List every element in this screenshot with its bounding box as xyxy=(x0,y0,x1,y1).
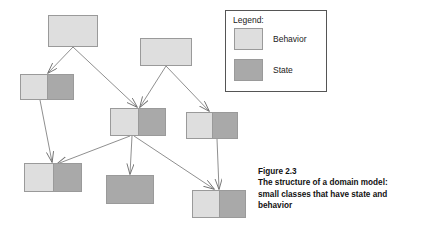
state-swatch xyxy=(234,59,263,81)
edge-n2-n5 xyxy=(166,66,209,111)
node-state-half xyxy=(219,191,246,217)
edge-n1-n4 xyxy=(73,47,137,107)
node-state-half xyxy=(107,176,153,203)
caption-line-4: behavior xyxy=(258,200,434,211)
node-behavior-half xyxy=(141,39,191,65)
edge-n5-n8 xyxy=(217,139,219,189)
figure-caption: Figure 2.3 The structure of a domain mod… xyxy=(258,166,434,212)
edge-n4-n6 xyxy=(57,136,130,164)
node-state-half xyxy=(47,75,74,99)
node-right-middle[interactable] xyxy=(186,112,238,139)
legend-box: Legend: Behavior State xyxy=(225,10,327,92)
node-top-left[interactable] xyxy=(48,15,98,47)
node-state-half xyxy=(138,109,166,135)
legend-row-behavior: Behavior xyxy=(234,28,307,50)
node-bottom-right[interactable] xyxy=(192,190,246,218)
node-behavior-half xyxy=(21,75,47,99)
node-center[interactable] xyxy=(110,108,166,136)
node-behavior-half xyxy=(25,164,53,191)
node-state-half xyxy=(212,113,238,138)
caption-line-1: Figure 2.3 xyxy=(258,166,434,177)
edge-n2-n4 xyxy=(140,66,166,107)
node-behavior-half xyxy=(187,113,212,138)
node-bottom-left[interactable] xyxy=(24,163,82,192)
node-behavior-half xyxy=(193,191,219,217)
node-state-half xyxy=(53,164,82,191)
legend-row-state: State xyxy=(234,59,293,81)
node-bottom-middle[interactable] xyxy=(106,175,154,204)
legend-title: Legend: xyxy=(233,15,264,25)
caption-line-2: The structure of a domain model: xyxy=(258,177,434,188)
node-left-upper[interactable] xyxy=(20,74,74,100)
node-top-middle[interactable] xyxy=(140,38,192,66)
edge-n4-n7 xyxy=(130,136,132,174)
figure-container: Legend: Behavior State Figure 2.3 The st… xyxy=(0,0,440,235)
caption-line-3: small classes that have state and xyxy=(258,189,434,200)
edge-n1-n3 xyxy=(48,47,73,73)
edge-n3-n6 xyxy=(40,100,52,162)
legend-label-state: State xyxy=(273,65,293,75)
legend-label-behavior: Behavior xyxy=(273,34,307,44)
node-behavior-half xyxy=(49,16,97,46)
node-behavior-half xyxy=(111,109,138,135)
behavior-swatch xyxy=(234,28,263,50)
